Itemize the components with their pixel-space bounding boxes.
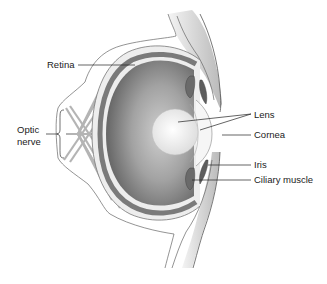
lens <box>152 109 198 155</box>
eye-diagram: Retina Optic nerve Lens Cornea Iris Cili… <box>0 0 327 284</box>
label-optic-nerve-line2: nerve <box>17 136 41 147</box>
cornea <box>196 100 212 166</box>
label-optic-nerve-line1: Optic <box>17 124 39 135</box>
label-ciliary-muscle: Ciliary muscle <box>254 174 313 185</box>
label-lens: Lens <box>254 109 275 120</box>
label-cornea: Cornea <box>254 129 285 140</box>
label-retina: Retina <box>47 59 74 70</box>
label-iris: Iris <box>254 159 267 170</box>
eye-illustration <box>0 0 327 284</box>
